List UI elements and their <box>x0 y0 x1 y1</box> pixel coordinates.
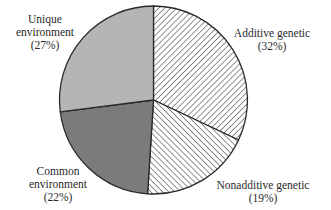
label-unique: Unique environment (27%) <box>16 13 75 52</box>
label-additive: Additive genetic (32%) <box>234 27 310 53</box>
label-unique-line1: Unique <box>28 13 62 26</box>
pie-chart: Unique environment (27%) Additive geneti… <box>0 0 331 210</box>
label-common-line2: environment <box>29 178 88 190</box>
pie-slices <box>59 6 247 194</box>
label-nonadditive-pct: (19%) <box>249 192 278 205</box>
label-common: Common environment (22%) <box>29 165 88 204</box>
label-additive-line1: Additive genetic <box>234 27 310 40</box>
label-common-pct: (22%) <box>44 191 73 204</box>
label-nonadditive-line1: Nonadditive genetic <box>217 179 310 192</box>
pie-slice-unique-environment <box>59 6 153 112</box>
label-additive-pct: (32%) <box>258 40 287 53</box>
label-common-line1: Common <box>37 165 80 177</box>
label-nonadditive: Nonadditive genetic (19%) <box>217 179 310 205</box>
label-unique-line2: environment <box>16 26 75 38</box>
label-unique-pct: (27%) <box>31 39 60 52</box>
